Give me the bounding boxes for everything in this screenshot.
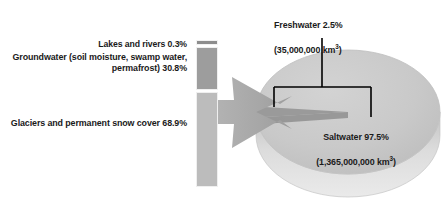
- saltwater-percent-text: Saltwater 97.5%: [323, 132, 389, 142]
- water-distribution-figure: Lakes and rivers 0.3% Groundwater (soil …: [0, 0, 448, 210]
- saltwater-volume-close: ): [393, 157, 396, 167]
- freshwater-breakdown-bar: [196, 40, 218, 182]
- chart-graphics: [0, 0, 448, 210]
- bar-segment-groundwater: [196, 47, 218, 90]
- label-glaciers: Glaciers and permanent snow cover 68.9%: [0, 118, 187, 129]
- freshwater-percent-text: Freshwater 2.5%: [274, 20, 343, 30]
- explode-arrow: [218, 77, 292, 148]
- arrow-shape: [218, 77, 292, 148]
- label-freshwater: Freshwater 2.5% (35,000,000 km3): [274, 7, 343, 56]
- freshwater-volume-close: ): [339, 45, 342, 55]
- bar-segment-glaciers: [196, 92, 218, 187]
- saltwater-volume-open: (1,365,000,000 km: [316, 157, 389, 167]
- label-saltwater: Saltwater 97.5% (1,365,000,000 km3): [297, 119, 415, 168]
- freshwater-volume-open: (35,000,000 km: [274, 45, 335, 55]
- label-groundwater: Groundwater (soil moisture, swamp water,…: [2, 52, 187, 73]
- freshwater-wedge-top: [256, 107, 348, 118]
- label-lakes-and-rivers: Lakes and rivers 0.3%: [98, 39, 187, 49]
- bar-segment-lakes-and-rivers: [196, 40, 218, 45]
